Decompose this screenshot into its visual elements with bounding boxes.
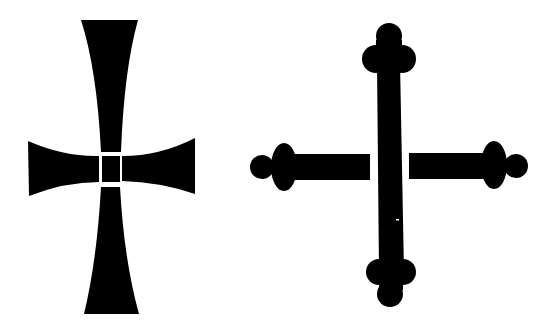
cross-botonnee-shaft <box>377 62 404 272</box>
cross-pattee-center-square <box>102 156 120 182</box>
crosses-illustration <box>0 0 553 332</box>
canvas: Cross pattée (flared arms with central s… <box>0 0 553 332</box>
